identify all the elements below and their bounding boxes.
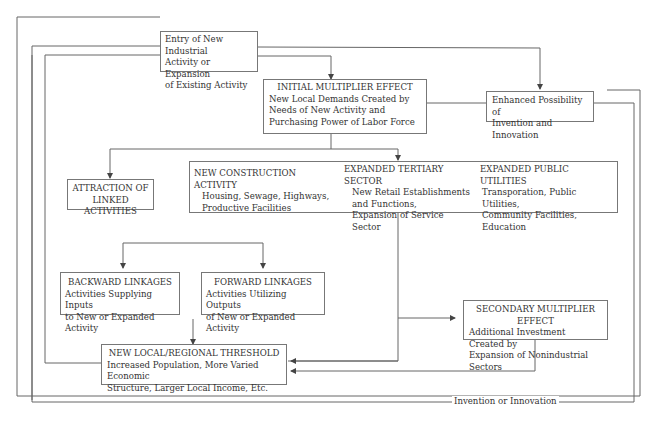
initial-multiplier-title: INITIAL MULTIPLIER EFFECT xyxy=(269,82,421,94)
tertiary-title: EXPANDED TERTIARY SECTOR xyxy=(344,164,474,187)
enhanced-line-2: Invention and Innovation xyxy=(492,118,588,141)
tertiary-column: EXPANDED TERTIARY SECTOR New Retail Esta… xyxy=(344,164,474,233)
invention-label: Invention or Innovation xyxy=(452,396,559,406)
initial-multiplier-line-3: Purchasing Power of Labor Force xyxy=(269,117,421,129)
backward-title: BACKWARD LINKAGES xyxy=(65,277,175,289)
utilities-line-3: Education xyxy=(480,222,616,234)
entry-node: Entry of New Industrial Activity or Expa… xyxy=(160,31,258,72)
tertiary-line-2: and Functions, xyxy=(344,199,474,211)
threshold-title: NEW LOCAL/REGIONAL THRESHOLD xyxy=(107,348,281,360)
enhanced-possibility-node: Enhanced Possibility of Invention and In… xyxy=(486,91,594,122)
attraction-line-1: ATTRACTION OF xyxy=(71,183,150,195)
forward-line-1: Activities Utilizing Outputs xyxy=(206,289,320,312)
forward-linkages-node: FORWARD LINKAGES Activities Utilizing Ou… xyxy=(201,272,325,315)
utilities-title: EXPANDED PUBLIC UTILITIES xyxy=(480,164,616,187)
backward-linkages-node: BACKWARD LINKAGES Activities Supplying I… xyxy=(60,272,180,315)
initial-multiplier-line-2: Needs of New Activity and xyxy=(269,105,421,117)
threshold-line-2: Structure, Larger Local Income, Etc. xyxy=(107,383,281,395)
entry-line-2: Activity or Expansion xyxy=(165,57,253,80)
initial-multiplier-node: INITIAL MULTIPLIER EFFECT New Local Dema… xyxy=(263,79,427,134)
sectors-node: NEW CONSTRUCTION ACTIVITY Housing, Sewag… xyxy=(189,161,618,213)
backward-line-1: Activities Supplying Inputs xyxy=(65,289,175,312)
backward-line-2: to New or Expanded Activity xyxy=(65,312,175,335)
flow-diagram: Entry of New Industrial Activity or Expa… xyxy=(0,0,668,433)
enhanced-line-1: Enhanced Possibility of xyxy=(492,95,588,118)
utilities-column: EXPANDED PUBLIC UTILITIES Transporation,… xyxy=(480,164,616,233)
construction-column: NEW CONSTRUCTION ACTIVITY Housing, Sewag… xyxy=(194,168,334,214)
secondary-line-1: Additional Investment Created by xyxy=(469,327,602,350)
forward-title: FORWARD LINKAGES xyxy=(206,277,320,289)
utilities-line-2: Community Facilities, xyxy=(480,210,616,222)
attraction-line-2: LINKED ACTIVITIES xyxy=(71,195,150,218)
entry-line-1: Entry of New Industrial xyxy=(165,34,253,57)
construction-line-1: Housing, Sewage, Highways, xyxy=(194,191,334,203)
tertiary-line-3: Expansion of Service Sector xyxy=(344,210,474,233)
attraction-node: ATTRACTION OF LINKED ACTIVITIES xyxy=(67,179,154,210)
threshold-node: NEW LOCAL/REGIONAL THRESHOLD Increased P… xyxy=(101,344,287,385)
construction-line-2: Productive Facilities xyxy=(194,203,334,215)
utilities-line-1: Transporation, Public Utilities, xyxy=(480,187,616,210)
construction-title: NEW CONSTRUCTION ACTIVITY xyxy=(194,168,334,191)
secondary-title: SECONDARY MULTIPLIER EFFECT xyxy=(469,304,602,327)
secondary-multiplier-node: SECONDARY MULTIPLIER EFFECT Additional I… xyxy=(463,300,608,340)
entry-line-3: of Existing Activity xyxy=(165,80,253,92)
initial-multiplier-line-1: New Local Demands Created by xyxy=(269,94,421,106)
tertiary-line-1: New Retail Establishments xyxy=(344,187,474,199)
forward-line-2: of New or Expanded Activity xyxy=(206,312,320,335)
threshold-line-1: Increased Population, More Varied Econom… xyxy=(107,360,281,383)
secondary-line-2: Expansion of Nonindustrial Sectors xyxy=(469,350,602,373)
